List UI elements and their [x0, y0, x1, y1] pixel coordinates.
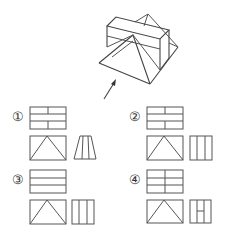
- arrow-shaft: [104, 83, 114, 99]
- isometric-solid: [99, 14, 178, 84]
- option-2-label: ②: [129, 109, 141, 124]
- option-1-label: ①: [12, 109, 24, 124]
- option-2-top-view: [147, 107, 183, 129]
- option-4[interactable]: ④: [129, 170, 211, 223]
- prism-right-slope: [133, 35, 160, 70]
- option-3-side-view: [72, 200, 94, 224]
- option-4-label: ④: [129, 172, 141, 187]
- prism-base-front: [99, 63, 150, 84]
- arrow-head-icon: [111, 79, 116, 86]
- option-4-top-view: [147, 170, 183, 193]
- option-3-top-view: [30, 170, 66, 193]
- option-2-side-view: [190, 136, 212, 160]
- back-prism-ridge: [135, 14, 178, 47]
- view-arrow: [104, 79, 116, 99]
- problem-figure: ① ②: [0, 0, 229, 233]
- option-1-front-view: [30, 136, 66, 160]
- option-1-side-view: [74, 136, 96, 159]
- option-1-top-view: [30, 107, 66, 129]
- prism-base-right: [150, 47, 178, 84]
- option-3-front-view: [30, 200, 66, 224]
- option-2[interactable]: ②: [129, 107, 212, 160]
- option-3-label: ③: [12, 172, 24, 187]
- option-1[interactable]: ①: [12, 107, 96, 160]
- option-4-front-view: [147, 200, 183, 223]
- option-3[interactable]: ③: [12, 170, 94, 224]
- option-2-front-view: [147, 136, 183, 160]
- option-4-side-view: [190, 200, 211, 223]
